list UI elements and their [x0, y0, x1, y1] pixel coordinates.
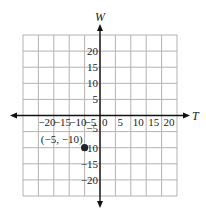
x-tick-label: 15: [148, 116, 160, 128]
x-tick-label: 0: [102, 116, 108, 128]
y-tick-label: −5: [86, 122, 98, 134]
y-tick-label: −20: [81, 174, 99, 186]
coordinate-plane: T W −20−15−10−505101520 2015105−5−10−15−…: [0, 0, 206, 221]
x-tick-label: 20: [164, 116, 176, 128]
data-points: (−5, −10): [41, 133, 88, 152]
y-tick-label: 5: [93, 93, 99, 105]
data-point-label: (−5, −10): [41, 133, 83, 146]
y-tick-label: 15: [87, 61, 99, 73]
y-tick-label: 10: [87, 77, 99, 89]
x-tick-labels: −20−15−10−505101520: [38, 116, 175, 128]
x-tick-label: 5: [117, 116, 123, 128]
y-axis-down-arrow-icon: [97, 201, 103, 208]
y-axis-up-arrow-icon: [97, 24, 103, 31]
data-point: [81, 144, 88, 151]
y-tick-label: 20: [87, 45, 99, 57]
y-tick-label: −15: [81, 158, 99, 170]
x-axis-right-arrow-icon: [183, 113, 190, 119]
x-axis-label: T: [192, 109, 200, 123]
y-axis-label: W: [95, 10, 106, 24]
x-tick-label: 10: [133, 116, 145, 128]
x-axis-left-arrow-icon: [10, 113, 17, 119]
